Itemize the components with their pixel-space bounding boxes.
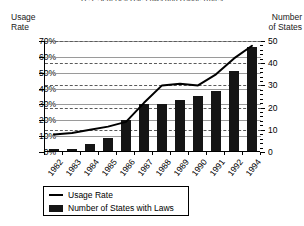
x-axis-tick-mark — [242, 152, 243, 155]
chart-title: U.S. Seat Belt Use Laws and Usage Rates — [0, 0, 304, 1]
left-axis-caption-line1: Usage — [11, 12, 36, 22]
line-series — [45, 41, 261, 152]
right-axis-caption-line1: Number — [268, 12, 302, 22]
x-axis-tick-mark — [152, 152, 153, 155]
legend-item-number-of-states: Number of States with Laws — [49, 202, 188, 214]
y-axis-right-tick-label: 20 — [268, 104, 298, 112]
x-axis-tick-mark — [206, 152, 207, 155]
x-axis-tick-mark — [116, 152, 117, 155]
chart-legend: Usage Rate Number of States with Laws — [43, 186, 189, 216]
plot-area — [44, 41, 260, 152]
x-axis-tick-mark — [62, 152, 63, 155]
left-axis-caption-line2: Rate — [11, 22, 36, 32]
legend-item-usage-rate: Usage Rate — [49, 189, 188, 201]
y-axis-right-tick-label: 30 — [268, 81, 298, 89]
x-axis-tick-mark — [98, 152, 99, 155]
right-axis-caption: Number of States — [268, 12, 302, 32]
x-axis-tick-mark — [188, 152, 189, 155]
legend-label: Usage Rate — [68, 190, 113, 200]
legend-label: Number of States with Laws — [68, 203, 174, 213]
y-axis-right-tick-label: 0 — [268, 148, 298, 156]
x-axis-tick-mark — [44, 152, 45, 155]
x-axis-tick-mark — [170, 152, 171, 155]
line-swatch-icon — [49, 194, 63, 196]
usage-rate-line — [54, 46, 252, 135]
x-axis-tick-mark — [260, 152, 261, 155]
bar-swatch-icon — [49, 205, 63, 212]
y-axis-right-tick-label: 10 — [268, 126, 298, 134]
left-axis-caption: Usage Rate — [11, 12, 36, 32]
x-axis-tick-mark — [224, 152, 225, 155]
right-axis-caption-line2: of States — [268, 22, 302, 32]
y-axis-right-tick-label: 40 — [268, 59, 298, 67]
chart-container: U.S. Seat Belt Use Laws and Usage Rates … — [0, 0, 304, 226]
y-axis-right-tick-label: 50 — [268, 37, 298, 45]
x-axis-tick-mark — [80, 152, 81, 155]
x-axis-tick-mark — [134, 152, 135, 155]
